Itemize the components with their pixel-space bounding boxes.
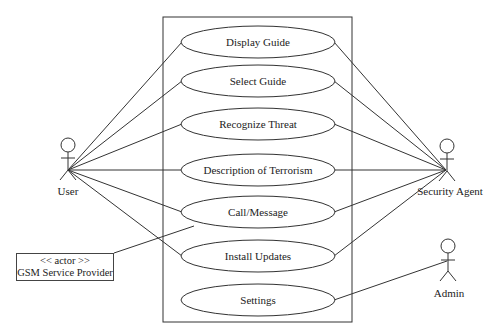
security-agent-actor-label: Security Agent: [400, 185, 492, 198]
use-case-label: Settings: [181, 293, 335, 307]
use-case-label: Display Guide: [181, 35, 335, 49]
use-case-label: Recognize Threat: [181, 117, 335, 131]
user-actor-label: User: [18, 185, 118, 198]
gsm-service-provider-actor: << actor >> GSM Service Provider: [16, 253, 114, 281]
use-case-label: Call/Message: [181, 205, 335, 219]
gsm-name-label: GSM Service Provider: [17, 267, 113, 279]
security-agent-actor-icon: [439, 139, 455, 181]
admin-actor-icon: [440, 239, 456, 281]
gsm-stereotype-label: << actor >>: [17, 255, 113, 267]
use-case-label: Select Guide: [181, 74, 335, 88]
admin-actor-label: Admin: [399, 287, 492, 300]
use-case-label: Install Updates: [181, 249, 335, 263]
use-case-label: Description of Terrorism: [181, 163, 335, 177]
